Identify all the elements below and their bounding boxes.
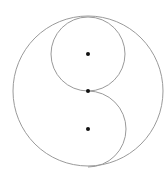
center-points [86,52,90,131]
diagram-canvas [0,0,167,178]
circles-diagram [0,0,167,178]
lower-semicircle-arc [88,91,126,167]
upper-center-dot [86,52,90,56]
lower-center-dot [86,127,90,131]
outer-center-dot [86,89,90,93]
